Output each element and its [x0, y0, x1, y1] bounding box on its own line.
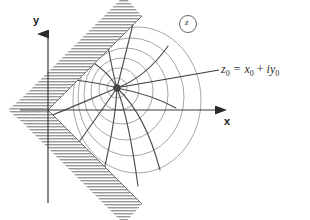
streamline-7	[104, 88, 117, 170]
x-axis-label: x	[224, 115, 230, 127]
y-axis-label: y	[33, 14, 39, 26]
z-plane-label: z	[185, 17, 189, 27]
y0-subscript: 0	[275, 69, 279, 78]
z0-point-marker	[114, 85, 121, 92]
plus-sign: +	[254, 62, 267, 76]
diagram-svg	[0, 0, 310, 220]
streamline-8	[117, 88, 138, 186]
hatch-band-upper	[22, 0, 142, 110]
figure-canvas: y x z z0=x0+iy0	[0, 0, 310, 220]
z0-equation-label: z0=x0+iy0	[221, 62, 279, 78]
equals-sign: =	[230, 62, 245, 76]
hatch-band-lower	[22, 110, 142, 220]
